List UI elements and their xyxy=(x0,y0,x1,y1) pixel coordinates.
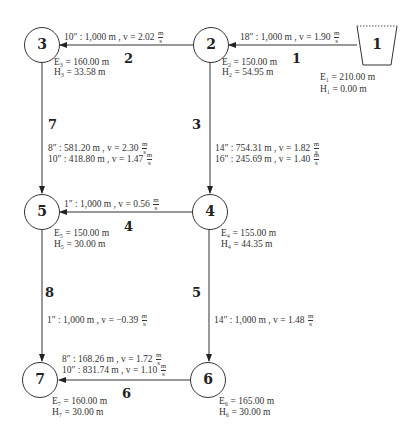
pipe-6-number: 6 xyxy=(122,386,131,401)
pipe-2-label: 10″ : 1,000 m , v = 2.02 ms xyxy=(64,30,163,45)
pipe-8-label: 1″ : 1,000 m , v = −0.39 ms xyxy=(47,313,147,328)
node-6-head: H₆ = 30.00 m xyxy=(219,407,270,418)
pipe-1-number: 1 xyxy=(292,51,301,66)
pipe-3-number: 3 xyxy=(192,117,201,132)
node-6-elevation: E₆ = 165.00 m xyxy=(219,396,274,407)
node-2-label: 2 xyxy=(194,36,228,52)
node-5-label: 5 xyxy=(25,203,59,219)
reservoir-1-elevation: E₁ = 210.00 m xyxy=(320,72,375,83)
reservoir-1-label: 1 xyxy=(360,36,394,52)
pipe-4-number: 4 xyxy=(124,219,133,234)
node-4-head: H₄ = 44.35 m xyxy=(221,239,272,250)
node-2-head: H₂ = 54.95 m xyxy=(222,67,273,78)
node-4-elevation: E₄ = 155.00 m xyxy=(221,228,276,239)
pipe-6-label-segment-2: 10″ : 831.74 m , v = 1.10 ms xyxy=(62,363,166,378)
node-5-elevation: E₅ = 150.00 m xyxy=(54,228,109,239)
pipe-1-label: 18″ : 1,000 m , v = 1.90 ms xyxy=(240,30,339,45)
node-7-head: H₇ = 30.00 m xyxy=(52,407,103,418)
pipe-7-number: 7 xyxy=(48,117,57,132)
node-4-label: 4 xyxy=(193,203,227,219)
reservoir-1-head: H₁ = 0.00 m xyxy=(320,84,367,95)
pipe-5-label: 14″ : 1,000 m , v = 1.48 ms xyxy=(214,313,313,328)
node-7-elevation: E₇ = 160.00 m xyxy=(52,396,107,407)
pipe-5-number: 5 xyxy=(192,285,201,300)
pipe-7-label-segment-2: 10″ : 418.80 m , v = 1.47 ms xyxy=(48,152,152,167)
node-3-head: H₃ = 33.58 m xyxy=(54,67,105,78)
node-7-label: 7 xyxy=(23,371,57,387)
pipe-8-number: 8 xyxy=(45,285,54,300)
pipe-3-label-segment-2: 16″ : 245.69 m , v = 1.40 ms xyxy=(215,152,319,167)
node-3-label: 3 xyxy=(25,36,59,52)
pipe-4-label: 1″ : 1,000 m , v = 0.56 ms xyxy=(64,197,159,212)
pipe-2-number: 2 xyxy=(124,51,133,66)
node-6-label: 6 xyxy=(191,371,225,387)
node-5-head: H₅ = 30.00 m xyxy=(54,239,105,250)
